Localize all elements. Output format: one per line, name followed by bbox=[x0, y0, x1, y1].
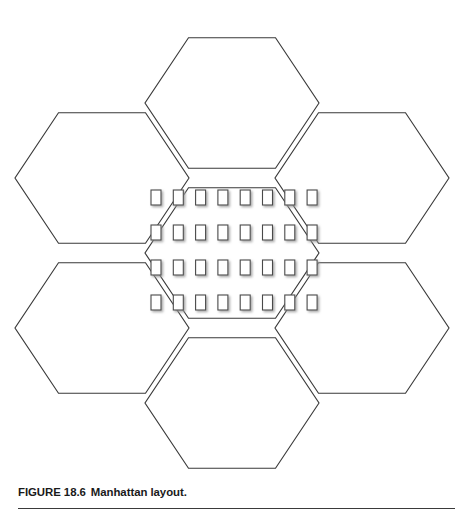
caption-divider-rule bbox=[18, 508, 455, 509]
canvas-background bbox=[0, 0, 464, 484]
figure-caption-label: FIGURE 18.6 bbox=[18, 486, 86, 498]
building-block-r1-c6 bbox=[263, 190, 273, 205]
building-block-r1-c4 bbox=[218, 190, 228, 205]
figure-caption: FIGURE 18.6Manhattan layout. bbox=[18, 486, 187, 498]
building-block-r2-c6 bbox=[263, 225, 273, 240]
figure-caption-title: Manhattan layout. bbox=[91, 486, 187, 498]
building-block-r1-c5 bbox=[240, 190, 250, 205]
building-block-r4-c3 bbox=[196, 295, 206, 310]
figure-container: FIGURE 18.6Manhattan layout. bbox=[0, 0, 464, 522]
building-block-r1-c2 bbox=[173, 190, 183, 205]
building-block-r2-c5 bbox=[240, 225, 250, 240]
building-block-r4-c8 bbox=[307, 295, 317, 310]
building-block-r3-c3 bbox=[196, 260, 206, 275]
building-block-r1-c8 bbox=[307, 190, 317, 205]
building-block-r3-c8 bbox=[307, 260, 317, 275]
building-block-r3-c5 bbox=[240, 260, 250, 275]
building-block-r1-c1 bbox=[151, 190, 161, 205]
building-block-r4-c7 bbox=[285, 295, 295, 310]
building-block-r2-c8 bbox=[307, 225, 317, 240]
building-block-r3-c7 bbox=[285, 260, 295, 275]
building-block-r4-c6 bbox=[263, 295, 273, 310]
building-block-r3-c6 bbox=[263, 260, 273, 275]
building-block-r2-c3 bbox=[196, 225, 206, 240]
building-block-r2-c2 bbox=[173, 225, 183, 240]
figure-caption-area: FIGURE 18.6Manhattan layout. bbox=[0, 484, 464, 522]
building-block-r2-c4 bbox=[218, 225, 228, 240]
building-block-r2-c7 bbox=[285, 225, 295, 240]
building-block-r3-c4 bbox=[218, 260, 228, 275]
building-block-r4-c5 bbox=[240, 295, 250, 310]
building-block-r3-c2 bbox=[173, 260, 183, 275]
building-block-r4-c1 bbox=[151, 295, 161, 310]
building-block-r4-c4 bbox=[218, 295, 228, 310]
building-block-r1-c3 bbox=[196, 190, 206, 205]
building-block-r3-c1 bbox=[151, 260, 161, 275]
manhattan-layout-diagram bbox=[0, 0, 464, 484]
building-block-r2-c1 bbox=[151, 225, 161, 240]
building-block-r1-c7 bbox=[285, 190, 295, 205]
building-block-r4-c2 bbox=[173, 295, 183, 310]
